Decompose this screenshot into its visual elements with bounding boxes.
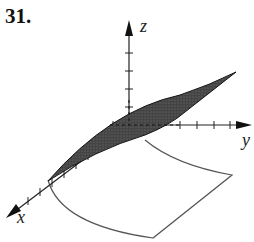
z-axis [125, 20, 133, 128]
plot-3d: z y x [0, 0, 254, 242]
z-axis-label: z [139, 16, 147, 36]
figure-root: 31. [0, 0, 254, 242]
x-axis-label: x [16, 207, 25, 227]
y-axis-label: y [240, 130, 250, 150]
